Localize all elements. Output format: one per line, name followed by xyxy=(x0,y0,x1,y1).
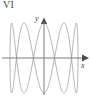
y-axis-label: y xyxy=(34,14,39,23)
lissajous-figure: VI x y xyxy=(0,0,91,98)
plot-area: x y xyxy=(0,0,91,98)
x-axis-label: x xyxy=(80,61,85,70)
